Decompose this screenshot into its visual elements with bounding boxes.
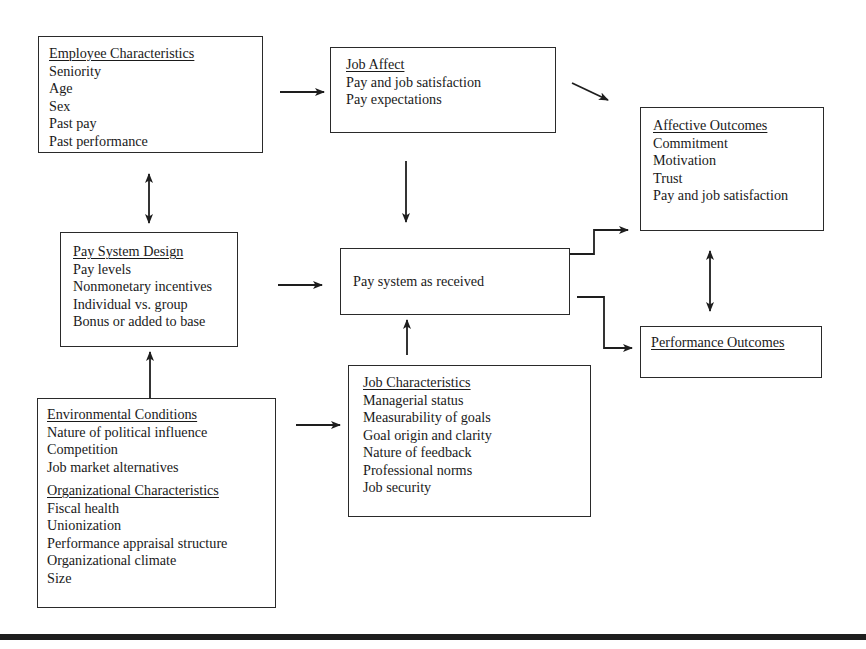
affective-outcomes-box: Affective Outcomes Commitment Motivation… xyxy=(640,107,824,231)
list-item: Performance appraisal structure xyxy=(47,535,227,553)
list-item: Pay and job satisfaction xyxy=(653,187,788,205)
list-item: Trust xyxy=(653,170,788,188)
list-item: Nature of political influence xyxy=(47,424,227,442)
organizational-characteristics-title: Organizational Characteristics xyxy=(47,482,227,500)
job-affect-title: Job Affect xyxy=(346,56,481,74)
pay-system-design-title: Pay System Design xyxy=(73,243,212,261)
list-item: Goal origin and clarity xyxy=(363,427,492,445)
list-item: Job security xyxy=(363,479,492,497)
list-item: Nonmonetary incentives xyxy=(73,278,212,296)
job-characteristics-title: Job Characteristics xyxy=(363,374,492,392)
job-characteristics-box: Job Characteristics Managerial status Me… xyxy=(348,365,591,517)
list-item: Seniority xyxy=(49,63,194,81)
arrow-received-to-performance xyxy=(577,297,632,348)
list-item: Organizational climate xyxy=(47,552,227,570)
list-item: Nature of feedback xyxy=(363,444,492,462)
employee-characteristics-box: Employee Characteristics Seniority Age S… xyxy=(38,36,263,153)
list-item: Pay expectations xyxy=(346,91,481,109)
affective-outcomes-title: Affective Outcomes xyxy=(653,117,788,135)
list-item: Managerial status xyxy=(363,392,492,410)
list-item: Past pay xyxy=(49,115,194,133)
arrow-received-to-affective xyxy=(569,230,628,254)
environmental-conditions-title: Environmental Conditions xyxy=(47,406,227,424)
list-item: Pay and job satisfaction xyxy=(346,74,481,92)
list-item: Sex xyxy=(49,98,194,116)
list-item: Fiscal health xyxy=(47,500,227,518)
list-item: Past performance xyxy=(49,133,194,151)
list-item: Age xyxy=(49,80,194,98)
list-item: Individual vs. group xyxy=(73,296,212,314)
job-affect-box: Job Affect Pay and job satisfaction Pay … xyxy=(330,47,556,133)
list-item: Motivation xyxy=(653,152,788,170)
pay-system-design-box: Pay System Design Pay levels Nonmonetary… xyxy=(60,232,238,347)
environmental-organizational-box: Environmental Conditions Nature of polit… xyxy=(37,398,276,608)
list-item: Professional norms xyxy=(363,462,492,480)
pay-system-received-label: Pay system as received xyxy=(353,273,484,291)
list-item: Measurability of goals xyxy=(363,409,492,427)
employee-characteristics-title: Employee Characteristics xyxy=(49,45,194,63)
list-item: Unionization xyxy=(47,517,227,535)
list-item: Size xyxy=(47,570,227,588)
performance-outcomes-box: Performance Outcomes xyxy=(640,326,822,378)
bottom-divider xyxy=(0,634,866,640)
performance-outcomes-title: Performance Outcomes xyxy=(651,334,785,352)
pay-system-received-box: Pay system as received xyxy=(340,248,570,315)
list-item: Competition xyxy=(47,441,227,459)
list-item: Pay levels xyxy=(73,261,212,279)
list-item: Commitment xyxy=(653,135,788,153)
arrow-jobaffect-to-affective xyxy=(572,83,608,100)
list-item: Bonus or added to base xyxy=(73,313,212,331)
list-item: Job market alternatives xyxy=(47,459,227,477)
